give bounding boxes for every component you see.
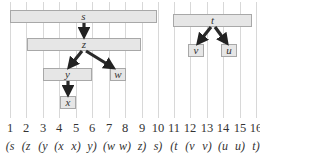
time-label-16: 16 bbox=[246, 121, 260, 136]
edge-t-u bbox=[215, 27, 226, 42]
edge-z-y bbox=[70, 51, 82, 66]
edge-z-w bbox=[86, 51, 112, 67]
edge-t-v bbox=[199, 27, 211, 42]
paren-16: t) bbox=[246, 139, 260, 154]
